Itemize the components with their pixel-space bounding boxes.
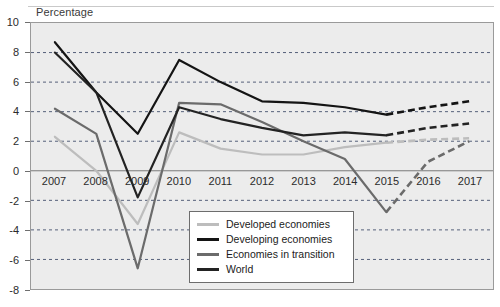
x-axis-tick-label: 2009: [125, 175, 149, 187]
x-axis-tick-label: 2014: [333, 175, 357, 187]
legend-item-label: Developed economies: [226, 218, 330, 231]
legend-item: Economies in transition: [197, 247, 345, 262]
legend-item-label: Economies in transition: [226, 248, 335, 261]
x-axis-tick-label: 2012: [250, 175, 274, 187]
legend-item: World: [197, 262, 345, 277]
x-axis-tick-label: 2010: [167, 175, 191, 187]
x-axis-tick-label: 2011: [209, 175, 233, 187]
legend-swatch-line-icon: [197, 253, 219, 256]
y-axis-tick-mark: [25, 171, 30, 172]
chart-screenshot: Percentage -8-6-4-20246810 2007200820092…: [0, 0, 500, 307]
x-axis-tick-label: 2015: [375, 175, 399, 187]
y-axis-tick-mark: [25, 22, 30, 23]
x-axis-tick-label: 2017: [458, 175, 482, 187]
x-axis-tick-label: 2013: [291, 175, 315, 187]
y-axis-tick-mark: [25, 52, 30, 53]
legend-swatch-line-icon: [197, 238, 219, 241]
legend-item-label: World: [226, 263, 253, 276]
x-axis-tick-label: 2016: [416, 175, 440, 187]
y-axis-tick-mark: [25, 260, 30, 261]
legend-item: Developed economies: [197, 217, 345, 232]
x-axis-tick-label: 2008: [83, 175, 107, 187]
y-axis-tick-mark: [25, 201, 30, 202]
y-axis-tick-mark: [25, 230, 30, 231]
chart-legend: Developed economiesDeveloping economiesE…: [189, 211, 354, 283]
legend-swatch-line-icon: [197, 268, 219, 271]
legend-swatch-line-icon: [197, 223, 219, 226]
y-axis-tick-mark: [25, 111, 30, 112]
x-axis-tick-label: 2007: [42, 175, 66, 187]
y-axis-tick-mark: [25, 82, 30, 83]
y-axis-tick-mark: [25, 141, 30, 142]
legend-item: Developing economies: [197, 232, 345, 247]
y-axis-tick-mark: [25, 290, 30, 291]
legend-item-label: Developing economies: [226, 233, 332, 246]
